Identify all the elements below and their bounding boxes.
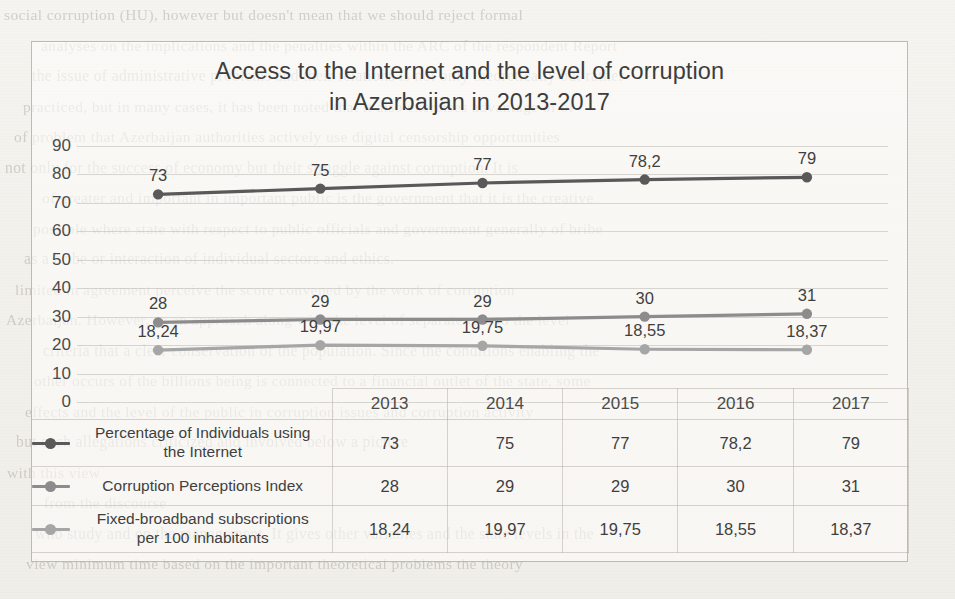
series-marker (802, 309, 812, 319)
legend-entry[interactable]: Corruption Perceptions Index (32, 467, 332, 506)
series-marker (315, 340, 325, 350)
legend-label: Corruption Perceptions Index (74, 477, 332, 496)
data-point-label: 28 (149, 294, 167, 313)
table-value-cell: 18,37 (793, 506, 908, 553)
chart-title: Access to the Internet and the level of … (32, 56, 907, 119)
table-corner-cell (32, 389, 332, 420)
data-point-label: 29 (311, 292, 329, 311)
table-value-cell: 19,97 (447, 506, 562, 553)
data-point-label: 18,37 (786, 321, 827, 340)
data-point-label: 30 (636, 289, 654, 308)
y-axis-tick-label: 20 (52, 335, 71, 355)
series-svg (77, 146, 888, 402)
data-point-label: 18,24 (137, 322, 178, 341)
table-value-cell: 18,24 (332, 506, 447, 553)
data-point-label: 19,97 (300, 317, 341, 336)
y-axis-tick-label: 40 (52, 278, 71, 298)
data-point-label: 19,75 (462, 317, 503, 336)
table-row: Corruption Perceptions Index2829293031 (32, 467, 909, 506)
y-axis-tick-label: 70 (52, 193, 71, 213)
table-value-cell: 75 (447, 420, 562, 467)
y-axis-tick-label: 80 (52, 164, 71, 184)
table-value-cell: 78,2 (678, 420, 793, 467)
table-year-header: 2014 (447, 389, 562, 420)
legend-label: Fixed-broadband subscriptionsper 100 inh… (74, 510, 332, 547)
table-header-row: 20132014201520162017 (32, 389, 909, 420)
table-value-cell: 19,75 (563, 506, 678, 553)
y-axis-tick-label: 90 (52, 136, 71, 156)
legend-marker-icon (32, 436, 70, 450)
table-value-cell: 30 (678, 467, 793, 506)
data-point-label: 79 (798, 149, 816, 168)
data-point-label: 73 (149, 166, 167, 185)
legend-entry[interactable]: Percentage of Individuals usingthe Inter… (32, 420, 332, 467)
table-year-header: 2015 (563, 389, 678, 420)
table-value-cell: 31 (793, 467, 908, 506)
series-marker (153, 345, 163, 355)
table-value-cell: 18,55 (678, 506, 793, 553)
table-value-cell: 29 (447, 467, 562, 506)
series-marker (477, 178, 487, 188)
data-point-label: 78,2 (629, 152, 661, 171)
y-axis-tick-label: 30 (52, 307, 71, 327)
plot-area: 73757778,279282929303118,2419,9719,7518,… (77, 146, 888, 402)
series-marker (802, 172, 812, 182)
data-point-label: 29 (473, 292, 491, 311)
data-point-label: 31 (798, 286, 816, 305)
chart-title-line-1: Access to the Internet and the level of … (32, 56, 907, 87)
table-row: Fixed-broadband subscriptionsper 100 inh… (32, 506, 909, 553)
data-point-label: 75 (311, 161, 329, 180)
y-axis-tick-label: 10 (52, 364, 71, 384)
table-value-cell: 79 (793, 420, 908, 467)
series-marker (315, 183, 325, 193)
series-marker (802, 345, 812, 355)
series-marker (153, 189, 163, 199)
table-body: Percentage of Individuals usingthe Inter… (32, 420, 909, 553)
y-axis-tick-label: 50 (52, 250, 71, 270)
table-year-header: 2013 (332, 389, 447, 420)
legend-marker-icon (32, 522, 70, 536)
series-marker (640, 344, 650, 354)
table-value-cell: 73 (332, 420, 447, 467)
table-year-header: 2017 (793, 389, 908, 420)
table-value-cell: 28 (332, 467, 447, 506)
table-value-cell: 77 (563, 420, 678, 467)
data-point-label: 18,55 (624, 321, 665, 340)
y-axis: 9080706050403020100 (32, 146, 75, 402)
table-year-header: 2016 (678, 389, 793, 420)
data-table: 20132014201520162017 Percentage of Indiv… (32, 388, 909, 553)
legend-entry[interactable]: Fixed-broadband subscriptionsper 100 inh… (32, 506, 332, 553)
series-marker (477, 341, 487, 351)
legend-marker-icon (32, 479, 70, 493)
chart-title-line-2: in Azerbaijan in 2013-2017 (32, 87, 907, 118)
table-value-cell: 29 (563, 467, 678, 506)
plot-wrapper: 9080706050403020100 73757778,27928292930… (32, 146, 909, 402)
series-marker (640, 174, 650, 184)
legend-label: Percentage of Individuals usingthe Inter… (74, 424, 332, 461)
y-axis-tick-label: 60 (52, 221, 71, 241)
chart-frame: Access to the Internet and the level of … (31, 41, 908, 562)
data-point-label: 77 (473, 155, 491, 174)
table-row: Percentage of Individuals usingthe Inter… (32, 420, 909, 467)
